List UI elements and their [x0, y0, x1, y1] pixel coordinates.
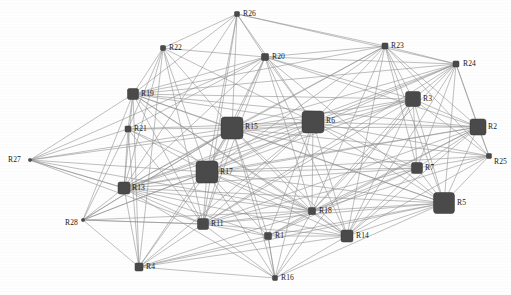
graph-node-r13[interactable]	[118, 182, 130, 194]
graph-edge	[207, 14, 237, 172]
graph-edge	[275, 236, 347, 278]
graph-node-r28[interactable]	[82, 219, 85, 222]
graph-edge	[124, 46, 385, 188]
graph-edge	[30, 57, 265, 160]
graph-node-r25[interactable]	[487, 154, 492, 159]
graph-node-r21[interactable]	[125, 126, 131, 132]
graph-edge	[444, 64, 456, 203]
graph-node-r2[interactable]	[470, 119, 486, 135]
graph-edge	[133, 64, 456, 94]
graph-node-r16[interactable]	[273, 276, 278, 281]
graph-canvas	[0, 0, 511, 295]
graph-node-r19[interactable]	[128, 89, 139, 100]
graph-edge	[83, 220, 203, 224]
graph-node-r26[interactable]	[235, 12, 240, 17]
graph-edge	[83, 94, 133, 220]
graph-edge	[275, 203, 444, 278]
network-graph-figure: R1R2R3R4R5R6R7R11R13R14R15R16R17R18R19R2…	[0, 0, 511, 295]
graph-edge	[30, 129, 128, 160]
graph-edge	[124, 188, 203, 224]
graph-edge	[265, 57, 413, 99]
graph-edge	[347, 99, 413, 236]
graph-edge	[30, 160, 207, 172]
graph-node-r14[interactable]	[341, 230, 353, 242]
graph-edge	[312, 122, 313, 211]
graph-node-r27[interactable]	[29, 159, 32, 162]
graph-node-r4[interactable]	[135, 263, 143, 271]
graph-node-r7[interactable]	[412, 163, 423, 174]
graph-edge	[139, 267, 275, 278]
graph-edge	[139, 48, 163, 267]
graph-edge	[124, 188, 312, 211]
graph-edge	[139, 203, 444, 267]
graph-edge	[232, 64, 456, 128]
graph-node-r15[interactable]	[221, 117, 243, 139]
graph-edge	[347, 168, 417, 236]
graph-edge	[413, 99, 478, 127]
graph-edge	[124, 99, 413, 188]
graph-node-r20[interactable]	[262, 54, 269, 61]
graph-edge	[313, 122, 444, 203]
graph-node-r6[interactable]	[302, 111, 324, 133]
graph-edge	[133, 94, 207, 172]
graph-edge	[133, 94, 203, 224]
graph-node-r3[interactable]	[406, 92, 421, 107]
graph-edge	[207, 46, 385, 172]
graph-edge	[347, 127, 478, 236]
graph-node-r18[interactable]	[309, 208, 316, 215]
graph-node-r1[interactable]	[265, 233, 272, 240]
graph-node-r17[interactable]	[196, 161, 218, 183]
graph-edge	[124, 122, 313, 188]
graph-edge	[83, 220, 139, 267]
graph-node-r11[interactable]	[198, 219, 209, 230]
graph-node-r23[interactable]	[382, 43, 388, 49]
edges-layer	[30, 14, 489, 278]
graph-node-r5[interactable]	[434, 193, 455, 214]
graph-edge	[128, 57, 265, 129]
graph-edge	[265, 57, 456, 64]
graph-edge	[30, 122, 313, 160]
graph-edge	[124, 129, 128, 188]
graph-node-r24[interactable]	[453, 61, 459, 67]
graph-edge	[268, 122, 313, 236]
graph-edge	[275, 99, 413, 278]
graph-edge	[312, 168, 417, 211]
graph-node-r22[interactable]	[161, 46, 166, 51]
graph-edge	[30, 160, 124, 188]
